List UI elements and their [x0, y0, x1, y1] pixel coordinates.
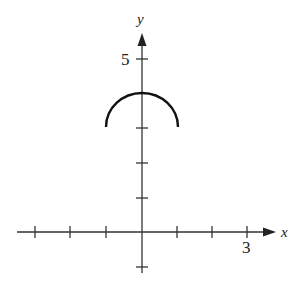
- x-axis-arrow-icon: [263, 228, 276, 237]
- x-axis-label: x: [280, 224, 288, 240]
- y-axis-arrow-icon: [138, 33, 147, 46]
- y-tick-label-5: 5: [121, 50, 130, 69]
- y-axis-label: y: [135, 11, 144, 27]
- x-tick-label-3: 3: [242, 238, 251, 257]
- coordinate-plane: x y 3 5: [0, 0, 295, 281]
